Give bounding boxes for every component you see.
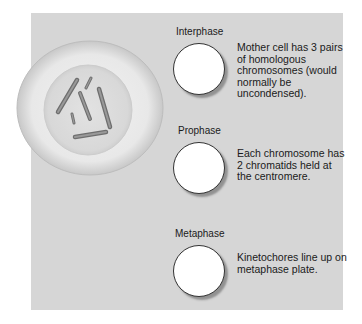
- stage-description-interphase: Mother cell has 3 pairs of homologous ch…: [237, 42, 347, 100]
- stage-description-prophase: Each chromosome has 2 chromatids held at…: [237, 148, 347, 183]
- stage-circle-prophase: [173, 142, 225, 194]
- stage-label-prophase: Prophase: [178, 125, 221, 136]
- stage-label-interphase: Interphase: [176, 26, 223, 37]
- stage-circle-interphase: [173, 43, 225, 95]
- stage-description-metaphase: Kinetochores line up on metaphase plate.: [237, 252, 347, 275]
- stage-label-metaphase: Metaphase: [175, 228, 224, 239]
- stage-circle-metaphase: [173, 245, 225, 297]
